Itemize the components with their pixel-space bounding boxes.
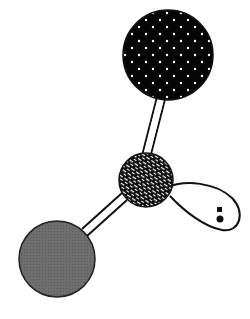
- lone-pair-electron-icon: [217, 207, 222, 212]
- atom-top: [123, 10, 213, 100]
- bond-bottom-left: [82, 193, 127, 236]
- molecule-diagram: [0, 0, 250, 319]
- bond-top: [142, 97, 165, 158]
- lone-pair-electron-icon: [217, 216, 224, 223]
- lone-pair-lobe: [168, 183, 240, 230]
- atom-bottom-left: [19, 221, 95, 297]
- atom-center: [119, 153, 173, 207]
